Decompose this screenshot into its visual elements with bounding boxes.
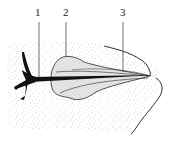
anatomical-diagram: 1 2 3 <box>0 0 172 144</box>
diagram-svg <box>0 0 172 144</box>
label-3: 3 <box>120 7 126 18</box>
label-2: 2 <box>63 7 69 18</box>
label-1: 1 <box>35 7 41 18</box>
